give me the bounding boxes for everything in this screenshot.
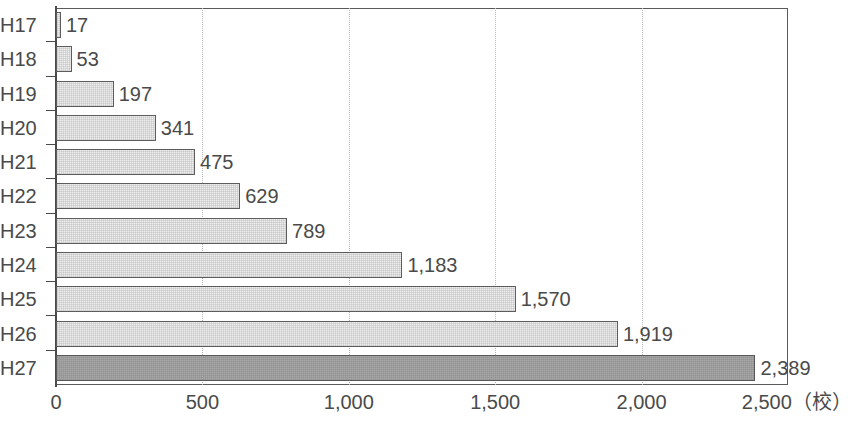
x-tick-label-2500: 2,500（校） <box>742 392 852 412</box>
bar-h27 <box>56 355 755 381</box>
bar-value-label-h23: 789 <box>292 221 325 241</box>
category-label-h22: H22 <box>0 186 50 206</box>
category-label-h17: H17 <box>0 15 50 35</box>
bar-row: H251,570 <box>0 282 855 316</box>
x-tick-label-0: 0 <box>50 392 61 412</box>
category-label-h18: H18 <box>0 49 50 69</box>
category-label-h25: H25 <box>0 289 50 309</box>
bar-value-label-h26: 1,919 <box>623 324 673 344</box>
bar-h21 <box>56 149 195 175</box>
x-tick-label-1000: 1,000 <box>324 392 374 412</box>
bar-rows: H1717H1853H19197H20341H21475H22629H23789… <box>0 8 855 385</box>
category-label-h20: H20 <box>0 118 50 138</box>
bar-h24 <box>56 252 402 278</box>
bar-row: H20341 <box>0 111 855 145</box>
category-label-h24: H24 <box>0 255 50 275</box>
category-label-h27: H27 <box>0 358 50 378</box>
bar-row: H21475 <box>0 145 855 179</box>
bar-row: H1717 <box>0 8 855 42</box>
bar-value-label-h18: 53 <box>77 49 99 69</box>
category-label-h26: H26 <box>0 324 50 344</box>
bar-h22 <box>56 183 240 209</box>
bar-h20 <box>56 115 156 141</box>
category-label-h23: H23 <box>0 221 50 241</box>
x-tick-label-500: 500 <box>186 392 219 412</box>
x-tick-label-2000: 2,000 <box>617 392 667 412</box>
bar-row: H22629 <box>0 179 855 213</box>
bar-value-label-h19: 197 <box>119 84 152 104</box>
bar-h26 <box>56 321 618 347</box>
category-label-h19: H19 <box>0 84 50 104</box>
bar-row: H272,389 <box>0 351 855 385</box>
bar-h23 <box>56 218 287 244</box>
bar-value-label-h17: 17 <box>66 15 88 35</box>
bar-value-label-h21: 475 <box>200 152 233 172</box>
bar-row: H261,919 <box>0 316 855 350</box>
bar-value-label-h22: 629 <box>245 186 278 206</box>
bar-row: H1853 <box>0 42 855 76</box>
bar-row: H19197 <box>0 77 855 111</box>
bar-row: H241,183 <box>0 248 855 282</box>
bar-row: H23789 <box>0 214 855 248</box>
bar-h25 <box>56 286 516 312</box>
bar-h17 <box>56 12 61 38</box>
bar-value-label-h27: 2,389 <box>760 358 810 378</box>
x-tick-label-1500: 1,500 <box>470 392 520 412</box>
bar-h19 <box>56 81 114 107</box>
category-label-h21: H21 <box>0 152 50 172</box>
bar-value-label-h20: 341 <box>161 118 194 138</box>
bar-value-label-h25: 1,570 <box>521 289 571 309</box>
bar-h18 <box>56 46 72 72</box>
bar-value-label-h24: 1,183 <box>407 255 457 275</box>
bar-chart: H1717H1853H19197H20341H21475H22629H23789… <box>0 0 855 424</box>
